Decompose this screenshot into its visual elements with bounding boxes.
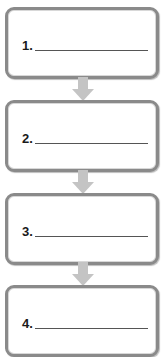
- answer-blank[interactable]: [35, 143, 148, 144]
- answer-blank[interactable]: [35, 236, 148, 237]
- step-number: 2.: [22, 132, 33, 145]
- answer-blank[interactable]: [35, 328, 148, 329]
- step-number: 4.: [22, 317, 33, 330]
- arrow-down-icon: [71, 170, 95, 194]
- step-number: 3.: [22, 225, 33, 238]
- step-number: 1.: [22, 39, 33, 52]
- step-box-2: 2.: [5, 100, 159, 172]
- step-4: 4.: [22, 317, 148, 330]
- step-2: 2.: [22, 132, 148, 145]
- step-box-4: 4.: [5, 285, 159, 357]
- step-3: 3.: [22, 225, 148, 238]
- step-box-3: 3.: [5, 193, 159, 265]
- arrow-down-icon: [71, 262, 95, 286]
- step-1: 1.: [22, 39, 148, 52]
- arrow-down-icon: [71, 77, 95, 101]
- step-box-1: 1.: [5, 7, 159, 79]
- answer-blank[interactable]: [35, 50, 148, 51]
